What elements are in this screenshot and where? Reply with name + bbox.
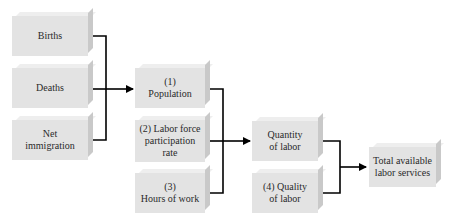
births-label: Births	[38, 30, 62, 42]
net-immigration-box: Net immigration	[12, 120, 88, 160]
net-immigration-label: Net immigration	[25, 128, 74, 152]
deaths-box: Deaths	[12, 68, 88, 108]
quality-of-labor-box: (4) Quality of labor	[252, 173, 318, 213]
labor-force-participation-box: (2) Labor force participation rate	[135, 120, 205, 162]
quantity-of-labor-box: Quantity of labor	[252, 121, 318, 161]
total-available-labor-services-label: Total available labor services	[373, 155, 432, 179]
hours-of-work-box: (3) Hours of work	[135, 173, 205, 213]
total-available-labor-services-box: Total available labor services	[369, 147, 436, 187]
hours-of-work-label: (3) Hours of work	[141, 181, 199, 205]
births-box: Births	[12, 16, 88, 56]
labor-force-participation-label: (2) Labor force participation rate	[139, 123, 200, 159]
deaths-label: Deaths	[36, 82, 64, 94]
quantity-of-labor-label: Quantity of labor	[268, 129, 303, 153]
population-label: (1) Population	[148, 76, 191, 100]
population-box: (1) Population	[135, 68, 205, 108]
quality-of-labor-label: (4) Quality of labor	[263, 181, 307, 205]
